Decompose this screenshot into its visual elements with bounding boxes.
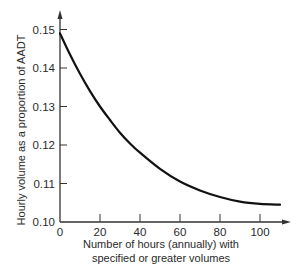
x-tick-label: 20 [94,226,107,238]
y-axis-arrow-icon [58,10,63,19]
x-axis-ticks: 020406080100 [57,214,270,238]
x-tick-label: 80 [214,226,227,238]
x-axis-arrow-icon [282,220,291,225]
y-tick-label: 0.10 [33,216,55,228]
x-tick-label: 40 [134,226,147,238]
x-tick-label: 0 [57,226,63,238]
x-tick-label: 60 [174,226,187,238]
x-axis-title-line-1: Number of hours (annually) with [83,238,239,250]
y-axis-ticks: 0.100.110.120.130.140.15 [33,24,67,229]
y-tick-label: 0.12 [33,139,55,151]
data-curve [60,33,280,204]
y-tick-label: 0.11 [33,178,55,190]
y-tick-label: 0.15 [33,24,55,36]
y-tick-label: 0.14 [33,62,56,74]
y-tick-label: 0.13 [33,101,55,113]
chart: 0.100.110.120.130.140.15 020406080100 Ho… [0,0,302,275]
x-tick-label: 100 [250,226,269,238]
x-axis-title-line-2: specified or greater volumes [92,252,231,264]
y-axis-title: Hourly volume as a proportion of AADT [15,34,27,225]
